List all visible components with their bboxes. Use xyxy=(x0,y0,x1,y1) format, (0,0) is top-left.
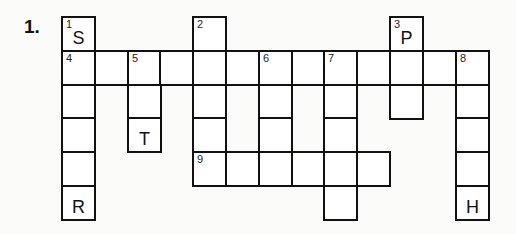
crossword-cell[interactable] xyxy=(356,151,391,187)
crossword-cell[interactable]: 8 xyxy=(455,50,490,86)
crossword-cell[interactable] xyxy=(225,151,260,187)
crossword-cell[interactable] xyxy=(389,84,424,120)
crossword-grid: 1S23P45678T9RH xyxy=(0,0,516,234)
crossword-cell[interactable] xyxy=(192,50,227,86)
crossword-cell[interactable] xyxy=(291,151,326,187)
given-letter: H xyxy=(457,198,488,216)
clue-number: 7 xyxy=(328,53,334,64)
crossword-cell[interactable] xyxy=(323,151,358,187)
crossword-cell[interactable] xyxy=(94,50,129,86)
clue-number: 6 xyxy=(263,53,269,64)
clue-number: 5 xyxy=(132,53,138,64)
crossword-cell[interactable]: T xyxy=(127,117,162,153)
crossword-cell[interactable] xyxy=(159,50,194,86)
crossword-cell[interactable] xyxy=(225,50,260,86)
crossword-cell[interactable]: 9 xyxy=(192,151,227,187)
crossword-cell[interactable]: 3P xyxy=(389,16,424,52)
crossword-cell[interactable] xyxy=(323,117,358,153)
crossword-cell[interactable] xyxy=(422,50,457,86)
crossword-cell[interactable] xyxy=(258,117,293,153)
crossword-cell[interactable] xyxy=(192,117,227,153)
crossword-cell[interactable] xyxy=(61,117,96,153)
crossword-cell[interactable] xyxy=(61,151,96,187)
clue-number: 4 xyxy=(66,53,72,64)
crossword-cell[interactable] xyxy=(455,151,490,187)
crossword-cell[interactable]: 6 xyxy=(258,50,293,86)
crossword-cell[interactable] xyxy=(455,117,490,153)
crossword-cell[interactable] xyxy=(323,185,358,221)
crossword-cell[interactable] xyxy=(356,50,391,86)
crossword-cell[interactable] xyxy=(127,84,162,120)
crossword-cell[interactable] xyxy=(291,50,326,86)
clue-number: 8 xyxy=(460,53,466,64)
given-letter: T xyxy=(129,130,160,148)
crossword-cell[interactable] xyxy=(389,50,424,86)
crossword-cell[interactable]: H xyxy=(455,185,490,221)
crossword-cell[interactable]: 5 xyxy=(127,50,162,86)
crossword-cell[interactable] xyxy=(258,151,293,187)
crossword-cell[interactable] xyxy=(455,84,490,120)
crossword-cell[interactable]: 1S xyxy=(61,16,96,52)
given-letter: R xyxy=(63,198,94,216)
crossword-cell[interactable]: 2 xyxy=(192,16,227,52)
clue-number: 9 xyxy=(197,154,203,165)
crossword-cell[interactable] xyxy=(323,84,358,120)
crossword-cell[interactable] xyxy=(258,84,293,120)
crossword-cell[interactable]: 4 xyxy=(61,50,96,86)
crossword-cell[interactable] xyxy=(192,84,227,120)
given-letter: S xyxy=(63,29,94,47)
crossword-cell[interactable]: 7 xyxy=(323,50,358,86)
clue-number: 2 xyxy=(197,19,203,30)
given-letter: P xyxy=(391,29,422,47)
crossword-cell[interactable] xyxy=(61,84,96,120)
crossword-cell[interactable]: R xyxy=(61,185,96,221)
